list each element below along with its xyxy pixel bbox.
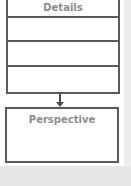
details-box: Details bbox=[6, 0, 120, 94]
page-edge-shadow bbox=[124, 0, 131, 166]
details-row-3 bbox=[8, 67, 118, 92]
details-row-1 bbox=[8, 18, 118, 42]
perspective-box: Perspective bbox=[5, 107, 119, 163]
page-bottom-background bbox=[0, 166, 131, 186]
perspective-label: Perspective bbox=[7, 114, 117, 126]
details-row-2 bbox=[8, 42, 118, 67]
details-header-row bbox=[8, 0, 118, 18]
